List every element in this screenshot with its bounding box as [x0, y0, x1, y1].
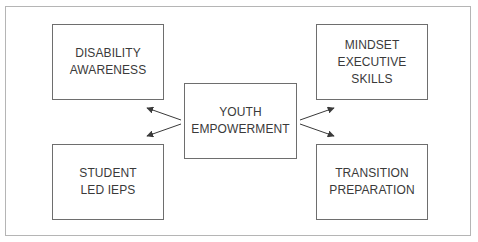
node-youth-empowerment: YOUTH EMPOWERMENT [184, 83, 297, 159]
node-label: DISABILITY AWARENESS [70, 45, 147, 79]
node-mindset-executive-skills: MINDSET EXECUTIVE SKILLS [316, 24, 428, 100]
center-label: YOUTH EMPOWERMENT [191, 104, 289, 138]
node-student-led-ieps: STUDENT LED IEPS [52, 144, 164, 220]
node-disability-awareness: DISABILITY AWARENESS [52, 24, 164, 100]
node-label: STUDENT LED IEPS [79, 165, 136, 199]
node-label: TRANSITION PREPARATION [329, 165, 414, 199]
node-label: MINDSET EXECUTIVE SKILLS [338, 37, 407, 88]
node-transition-preparation: TRANSITION PREPARATION [316, 144, 428, 220]
